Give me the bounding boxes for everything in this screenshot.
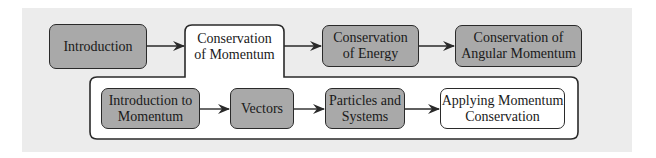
node-introduction-to-momentum: Introduction to Momentum	[101, 88, 200, 129]
node-label: Introduction to Momentum	[109, 93, 193, 125]
node-label: Conservation of Angular Momentum	[461, 30, 576, 62]
node-label: Introduction	[63, 39, 132, 55]
node-vectors: Vectors	[230, 88, 294, 129]
node-label: Conservation of Energy	[333, 30, 408, 62]
node-particles-and-systems: Particles and Systems	[325, 88, 405, 129]
node-label: Vectors	[241, 101, 283, 117]
node-label: Applying Momentum Conservation	[442, 93, 564, 125]
node-label: Conservation of Momentum	[194, 31, 275, 63]
node-label: Particles and Systems	[329, 93, 401, 125]
node-conservation-of-energy: Conservation of Energy	[322, 25, 419, 67]
node-applying-momentum-conservation: Applying Momentum Conservation	[440, 88, 565, 129]
node-conservation-of-angular-momentum: Conservation of Angular Momentum	[455, 25, 582, 67]
node-introduction: Introduction	[49, 24, 147, 69]
node-conservation-of-momentum: Conservation of Momentum	[185, 26, 284, 68]
